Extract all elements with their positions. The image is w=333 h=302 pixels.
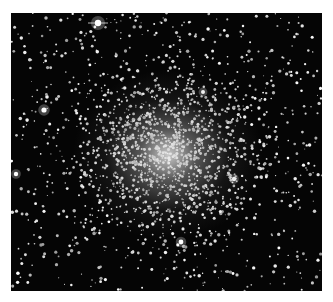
star-cluster-photo: [11, 13, 322, 291]
cluster-core-glow: [11, 13, 322, 291]
